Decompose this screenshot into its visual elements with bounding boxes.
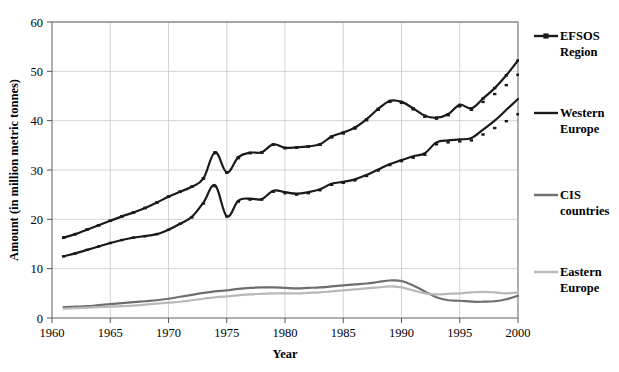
data-point-marker (248, 152, 251, 154)
data-point-marker (458, 105, 461, 107)
data-point-marker (481, 133, 484, 135)
data-point-marker (283, 147, 286, 149)
data-point-marker (132, 211, 135, 213)
y-tick-label: 40 (31, 114, 44, 128)
legend-swatch-marker (543, 33, 548, 38)
data-point-marker (283, 192, 286, 194)
data-point-marker (62, 255, 65, 257)
data-point-marker (237, 200, 240, 202)
data-point-marker (505, 74, 508, 76)
data-point-marker (446, 141, 449, 143)
data-point-marker (307, 146, 310, 148)
x-axis-tick-labels: 196019651970197519801985199019952000 (40, 326, 531, 340)
legend-label-line1: Western (560, 106, 604, 120)
data-point-marker (295, 147, 298, 149)
data-point-marker (353, 127, 356, 129)
data-point-marker (120, 239, 123, 241)
x-tick-label: 1970 (156, 326, 181, 340)
legend-label-line1: Eastern (560, 265, 602, 279)
data-point-marker (213, 185, 216, 187)
data-point-marker (481, 97, 484, 99)
data-point-marker (178, 191, 181, 193)
data-point-marker (470, 109, 473, 111)
data-point-marker (190, 216, 193, 218)
data-point-marker (505, 120, 508, 122)
legend-label-line1: CIS (560, 188, 581, 202)
x-tick-label: 2000 (506, 326, 531, 340)
data-point-marker (470, 139, 473, 141)
data-point-marker (213, 152, 216, 154)
data-point-marker (109, 220, 112, 222)
data-point-marker (411, 108, 414, 110)
data-point-marker (97, 245, 100, 247)
data-point-marker (388, 164, 391, 166)
data-point-marker (167, 228, 170, 230)
data-point-marker (423, 154, 426, 156)
y-tick-label: 60 (31, 16, 44, 30)
data-point-marker (167, 195, 170, 197)
data-point-marker (493, 127, 496, 129)
data-point-marker (85, 228, 88, 230)
x-tick-label: 1980 (273, 326, 298, 340)
data-point-marker (318, 144, 321, 146)
y-tick-label: 30 (31, 164, 44, 178)
data-point-marker (481, 101, 484, 103)
data-point-marker (272, 191, 275, 193)
data-point-marker (435, 143, 438, 145)
data-point-marker (260, 198, 263, 200)
y-tick-label: 10 (31, 262, 44, 276)
data-point-marker (109, 242, 112, 244)
y-tick-label: 50 (31, 65, 44, 79)
data-point-marker (330, 184, 333, 186)
y-tick-label: 0 (37, 312, 43, 326)
data-point-marker (237, 157, 240, 159)
data-point-marker (190, 186, 193, 188)
data-point-marker (144, 207, 147, 209)
data-point-marker (388, 101, 391, 103)
data-point-marker (202, 177, 205, 179)
data-point-marker (458, 140, 461, 142)
data-point-marker (202, 202, 205, 204)
data-point-marker (493, 93, 496, 95)
data-point-marker (411, 156, 414, 158)
data-point-marker (85, 249, 88, 251)
data-point-marker (155, 233, 158, 235)
data-point-marker (342, 132, 345, 134)
data-point-marker (295, 193, 298, 195)
data-point-marker (97, 224, 100, 226)
data-point-marker (435, 117, 438, 119)
line-chart: 196019651970197519801985199019952000 010… (0, 0, 619, 372)
legend-label-line1: EFSOS (560, 29, 600, 43)
legend-label-line2: Region (560, 45, 598, 59)
data-point-marker (225, 215, 228, 217)
legend-label-line2: Europe (560, 122, 600, 136)
data-point-marker (365, 119, 368, 121)
data-point-marker (225, 171, 228, 173)
chart-background (0, 0, 619, 372)
data-point-marker (74, 233, 77, 235)
x-tick-label: 1965 (98, 326, 123, 340)
data-point-marker (377, 109, 380, 111)
data-point-marker (330, 136, 333, 138)
data-point-marker (365, 175, 368, 177)
data-point-marker (307, 192, 310, 194)
data-point-marker (446, 114, 449, 116)
y-axis-title: Amount (in million metric tonnes) (7, 79, 21, 261)
data-point-marker (505, 84, 508, 86)
data-point-marker (248, 198, 251, 200)
legend-label-line2: countries (560, 204, 609, 218)
data-point-marker (132, 236, 135, 238)
data-point-marker (318, 189, 321, 191)
data-point-marker (144, 235, 147, 237)
x-tick-label: 1985 (331, 326, 356, 340)
data-point-marker (155, 201, 158, 203)
data-point-marker (423, 116, 426, 118)
x-tick-label: 1975 (214, 326, 239, 340)
data-point-marker (74, 252, 77, 254)
data-point-marker (400, 160, 403, 162)
x-axis-title: Year (273, 347, 298, 361)
data-point-marker (62, 236, 65, 238)
data-point-marker (400, 102, 403, 104)
data-point-marker (120, 215, 123, 217)
data-point-marker (272, 144, 275, 146)
